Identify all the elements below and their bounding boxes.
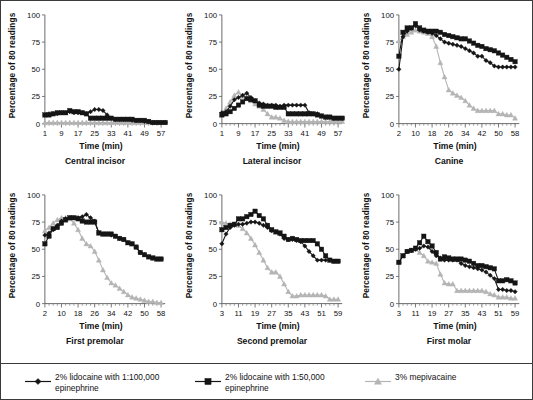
square-marker-icon — [253, 209, 257, 213]
square-marker-icon — [257, 213, 261, 217]
square-marker-icon — [513, 281, 517, 285]
x-tick-label: 3 — [397, 309, 401, 318]
square-marker-icon — [232, 222, 236, 226]
legend-item-1[interactable]: 2% lidocaine with 1:50,000 epinephrine — [195, 372, 325, 393]
square-marker-icon — [113, 117, 117, 121]
triangle-marker-icon — [365, 373, 391, 391]
y-tick-label: 100 — [381, 11, 394, 20]
square-marker-icon — [319, 114, 323, 118]
diamond-marker-icon — [43, 233, 47, 237]
square-marker-icon — [299, 112, 303, 116]
square-marker-icon — [417, 26, 421, 30]
diamond-marker-icon — [471, 266, 475, 270]
square-marker-icon — [76, 217, 80, 221]
x-tick-label: 41 — [124, 129, 133, 138]
square-marker-icon — [405, 249, 409, 253]
square-marker-icon — [467, 259, 471, 263]
square-marker-icon — [492, 267, 496, 271]
chart-panels: Percentage of 80 readings025507510019172… — [1, 1, 532, 361]
square-marker-icon — [59, 221, 63, 225]
triangle-marker-icon — [442, 280, 447, 285]
square-marker-icon — [413, 21, 417, 25]
square-marker-icon — [126, 241, 130, 245]
square-marker-icon — [68, 216, 72, 220]
diamond-marker-icon — [319, 258, 323, 262]
diamond-marker-icon — [500, 287, 504, 291]
legend-label: 2% lidocaine with 1:100,000 epinephrine — [55, 372, 159, 393]
square-marker-icon — [459, 257, 463, 261]
square-marker-icon — [195, 373, 221, 391]
y-tick-label: 100 — [27, 191, 40, 200]
square-marker-icon — [151, 256, 155, 260]
y-tick-label: 0 — [36, 120, 40, 129]
triangle-marker-icon — [438, 60, 443, 65]
square-marker-icon — [122, 237, 126, 241]
square-marker-icon — [303, 112, 307, 116]
y-axis-label: Percentage of 80 readings — [6, 1, 20, 129]
y-tick-label: 25 — [31, 272, 40, 281]
y-tick-label: 50 — [385, 65, 394, 74]
chart-legend: 2% lidocaine with 1:100,000 epinephrine2… — [1, 363, 532, 399]
square-marker-icon — [68, 108, 72, 112]
square-marker-icon — [134, 245, 138, 249]
square-marker-icon — [336, 116, 340, 120]
square-marker-icon — [488, 266, 492, 270]
square-marker-icon — [492, 49, 496, 53]
diamond-marker-icon — [463, 263, 467, 267]
square-marker-icon — [422, 28, 426, 32]
x-tick-label: 42 — [124, 309, 133, 318]
legend-item-2[interactable]: 3% mepivacaine — [365, 372, 456, 391]
plot-area: 0255075100210182634425058 — [395, 11, 519, 123]
square-marker-icon — [105, 232, 109, 236]
x-tick-label: 50 — [140, 309, 149, 318]
x-tick-label: 49 — [317, 129, 326, 138]
diamond-marker-icon — [417, 246, 421, 250]
square-marker-icon — [476, 263, 480, 267]
y-tick-label: 25 — [385, 272, 394, 281]
square-marker-icon — [336, 259, 340, 263]
x-tick-label: 27 — [267, 309, 276, 318]
square-marker-icon — [159, 257, 163, 261]
triangle-marker-icon — [100, 267, 105, 272]
plot-area: 0255075100311192735435159 — [218, 191, 342, 303]
square-marker-icon — [434, 250, 438, 254]
legend-item-0[interactable]: 2% lidocaine with 1:100,000 epinephrine — [25, 372, 159, 393]
triangle-marker-icon — [96, 258, 101, 263]
square-marker-icon — [426, 29, 430, 33]
square-marker-icon — [430, 244, 434, 248]
square-marker-icon — [72, 109, 76, 113]
square-marker-icon — [446, 256, 450, 260]
x-tick-label: 57 — [334, 129, 343, 138]
x-axis-label: Time (min) — [385, 141, 525, 151]
diamond-marker-icon — [97, 107, 101, 111]
square-marker-icon — [422, 234, 426, 238]
square-marker-icon — [459, 37, 463, 41]
square-marker-icon — [311, 112, 315, 116]
triangle-marker-icon — [282, 281, 287, 286]
square-marker-icon — [299, 238, 303, 242]
diamond-marker-icon — [290, 103, 294, 107]
square-marker-icon — [138, 250, 142, 254]
square-marker-icon — [163, 120, 167, 124]
legend-label: 2% lidocaine with 1:50,000 epinephrine — [225, 372, 325, 393]
square-marker-icon — [307, 112, 311, 116]
square-marker-icon — [307, 238, 311, 242]
y-tick-label: 50 — [385, 245, 394, 254]
square-marker-icon — [228, 223, 232, 227]
square-marker-icon — [505, 277, 509, 281]
y-tick-label: 50 — [31, 245, 40, 254]
y-tick-label: 50 — [208, 65, 217, 74]
square-marker-icon — [409, 248, 413, 252]
square-marker-icon — [253, 99, 257, 103]
diamond-marker-icon — [303, 103, 307, 107]
square-marker-icon — [80, 111, 84, 115]
square-marker-icon — [467, 39, 471, 43]
square-marker-icon — [405, 26, 409, 30]
x-tick-label: 11 — [411, 309, 419, 318]
square-marker-icon — [72, 216, 76, 220]
plot-area: 0255075100210182634425058 — [41, 191, 165, 303]
square-marker-icon — [117, 236, 121, 240]
square-marker-icon — [159, 120, 163, 124]
square-marker-icon — [434, 29, 438, 33]
square-marker-icon — [446, 33, 450, 37]
